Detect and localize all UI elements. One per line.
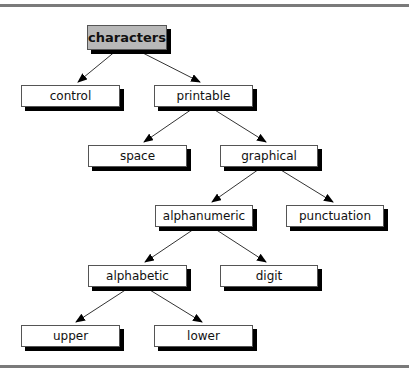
node-label: printable <box>177 89 231 103</box>
edge-graphical-alphanumeric <box>212 167 262 202</box>
node-lower: lower <box>154 325 253 347</box>
node-alphabetic: alphabetic <box>88 265 187 287</box>
node-alphanumeric: alphanumeric <box>155 205 253 227</box>
node-label: digit <box>256 269 283 283</box>
node-label: graphical <box>241 149 297 163</box>
node-label: alphanumeric <box>163 209 245 223</box>
node-upper: upper <box>21 325 120 347</box>
node-punctuation: punctuation <box>286 205 384 227</box>
edge-alphanumeric-digit <box>212 227 266 262</box>
node-label: upper <box>53 329 88 343</box>
node-graphical: graphical <box>220 145 318 167</box>
node-space: space <box>88 145 187 167</box>
node-characters: characters <box>87 25 167 50</box>
edge-graphical-punctuation <box>276 167 333 202</box>
edge-characters-control <box>78 50 117 82</box>
node-label: characters <box>88 30 166 45</box>
edge-printable-graphical <box>210 107 266 142</box>
edge-alphanumeric-alphabetic <box>145 227 197 262</box>
edges <box>0 0 409 374</box>
edge-characters-printable <box>137 50 200 82</box>
node-printable: printable <box>154 85 253 107</box>
node-label: space <box>120 149 155 163</box>
edge-alphabetic-upper <box>76 287 130 322</box>
node-label: lower <box>187 329 220 343</box>
node-label: alphabetic <box>106 269 169 283</box>
edge-alphabetic-lower <box>145 287 202 322</box>
edge-printable-space <box>144 107 195 142</box>
node-label: punctuation <box>299 209 371 223</box>
node-label: control <box>50 89 92 103</box>
node-control: control <box>21 85 120 107</box>
node-digit: digit <box>220 265 318 287</box>
